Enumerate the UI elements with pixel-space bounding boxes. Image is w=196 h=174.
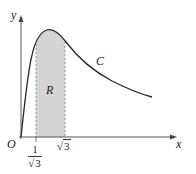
tick-numerator: 1 xyxy=(33,145,38,155)
curve-label-c: C xyxy=(96,55,104,67)
origin-label: O xyxy=(7,138,16,150)
region-label-r: R xyxy=(46,84,53,96)
tick-denominator: 3 xyxy=(34,156,42,169)
x-tick-one-over-root-three: 1 √3 xyxy=(28,144,42,169)
x-tick-root-three: √3 xyxy=(57,141,71,152)
y-axis-arrow-icon xyxy=(19,15,24,22)
y-axis-label: y xyxy=(11,9,16,21)
tick-radicand: 3 xyxy=(63,139,71,152)
x-axis-label: x xyxy=(176,138,181,150)
diagram: y x O C R 1 √3 √3 xyxy=(0,0,196,174)
